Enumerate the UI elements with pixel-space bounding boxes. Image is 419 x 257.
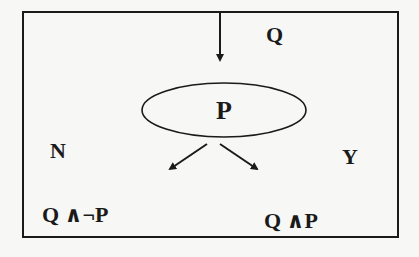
decision-node-label: P (216, 96, 232, 125)
branch-yes-arrow (220, 144, 257, 169)
outcome-no-label: Q ∧¬P (42, 202, 108, 227)
branch-no-arrow (170, 144, 207, 169)
diagram-canvas: Q P N Y Q ∧¬P Q ∧P (0, 0, 419, 257)
input-label: Q (266, 22, 283, 47)
outcome-yes-label: Q ∧P (264, 208, 318, 233)
branch-no-label: N (50, 138, 66, 163)
branch-yes-label: Y (342, 144, 358, 169)
